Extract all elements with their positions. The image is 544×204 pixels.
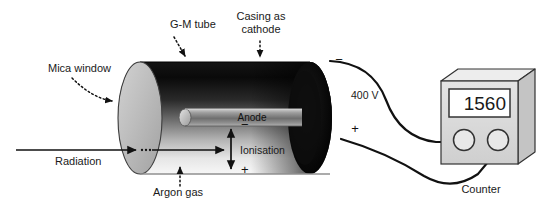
casing-cathode-label-line1: Casing as [237,10,286,22]
casing-cathode-label-line2: cathode [241,23,280,35]
radiation-label: Radiation [55,155,101,167]
mica-window-label: Mica window [48,62,111,74]
argon-gas-label: Argon gas [153,186,204,198]
counter-terminal-left [454,130,475,151]
ionisation-negative-sign: − [241,117,249,132]
voltage-label: 400 V [351,89,378,101]
counter-display-value: 1560 [464,93,506,114]
mica-window [118,62,162,174]
positive-terminal-sign: + [351,121,359,136]
gm-tube-diagram: Anode − + Ionisation Mica window G-M tub… [0,0,544,204]
counter-label: Counter [461,183,500,195]
diagram-canvas: Anode − + Ionisation Mica window G-M tub… [0,0,544,204]
negative-terminal-sign: − [335,52,343,67]
ionisation-positive-sign: + [241,162,249,177]
counter-side-face [518,69,535,164]
gm-tube-leader [174,37,185,56]
counter-terminal-right [488,130,509,151]
mica-window-leader [72,78,112,101]
radiation-ray-dots [141,149,151,151]
ionisation-label: Ionisation [240,144,285,156]
counter-device[interactable]: 1560 [441,69,535,164]
gm-tube-label: G-M tube [170,18,216,30]
